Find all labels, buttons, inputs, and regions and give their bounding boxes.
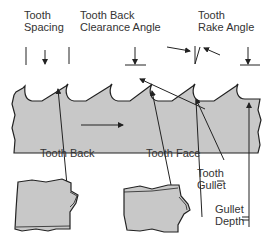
label-line: Tooth xyxy=(24,9,64,21)
blade-body xyxy=(12,84,261,153)
label-tooth-face: Tooth Face xyxy=(146,147,200,159)
tooth-face-detail xyxy=(124,185,190,232)
label-gullet-depth: Gullet Depth xyxy=(215,203,244,227)
label-tooth-back: Tooth Back xyxy=(40,147,94,159)
label-tooth-spacing: Tooth Spacing xyxy=(24,9,64,33)
label-line: Rake Angle xyxy=(198,21,254,33)
label-tooth-rake-angle: Tooth Rake Angle xyxy=(198,9,254,33)
saw-blade-diagram: Tooth Spacing Tooth Back Clearance Angle… xyxy=(0,0,275,239)
label-line: Tooth xyxy=(197,167,226,179)
label-line: Tooth Back xyxy=(80,9,161,21)
label-line: Tooth xyxy=(198,9,254,21)
label-line: Depth xyxy=(215,215,244,227)
label-tooth-gullet: Tooth Gullet xyxy=(197,167,226,191)
label-tooth-back-clearance-angle: Tooth Back Clearance Angle xyxy=(80,9,161,33)
label-line: Spacing xyxy=(24,21,64,33)
label-line: Clearance Angle xyxy=(80,21,161,33)
label-line: Gullet xyxy=(215,203,244,215)
tooth-back-detail xyxy=(15,179,78,231)
label-line: Gullet xyxy=(197,179,226,191)
